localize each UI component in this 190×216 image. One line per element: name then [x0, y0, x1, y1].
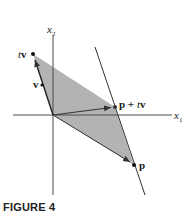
x1-axis-label: x1: [173, 109, 183, 124]
figure-caption: FIGURE 4: [3, 201, 55, 213]
point-v: [40, 83, 43, 86]
x2-axis-label: x2: [46, 23, 56, 38]
label-p: p: [139, 159, 145, 171]
point-p: [132, 163, 136, 167]
figure-canvas: x2 x1 tv v p + tv p: [0, 0, 190, 216]
point-tv: [31, 52, 35, 56]
label-p-plus-tv: p + tv: [119, 98, 146, 110]
point-p-plus-tv: [113, 105, 117, 109]
label-v: v: [33, 78, 39, 90]
label-tv: tv: [18, 48, 27, 60]
